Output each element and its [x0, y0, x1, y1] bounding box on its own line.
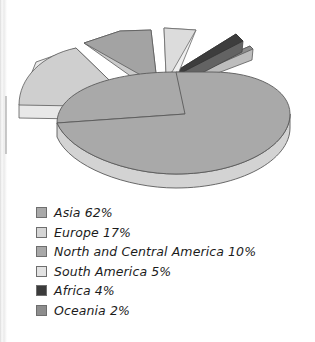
legend-swatch-oceania: [36, 305, 47, 316]
pie-chart-figure: Asia 62% Europe 17% North and Central Am…: [0, 0, 315, 342]
legend-item-asia: Asia 62%: [36, 203, 306, 223]
legend-label-north-and-central-america: North and Central America 10%: [54, 244, 256, 259]
legend-swatch-asia: [36, 207, 47, 218]
pie-chart-graphic: [0, 0, 315, 196]
chart-legend: Asia 62% Europe 17% North and Central Am…: [36, 203, 306, 320]
legend-label-south-america: South America 5%: [54, 264, 171, 279]
legend-label-asia: Asia 62%: [54, 205, 113, 220]
legend-item-oceania: Oceania 2%: [36, 301, 306, 321]
legend-item-north-and-central-america: North and Central America 10%: [36, 242, 306, 262]
legend-swatch-south-america: [36, 266, 47, 277]
legend-label-oceania: Oceania 2%: [54, 303, 130, 318]
legend-swatch-north-and-central-america: [36, 246, 47, 257]
pie-chart-svg: [0, 0, 315, 196]
legend-label-europe: Europe 17%: [54, 225, 131, 240]
legend-item-africa: Africa 4%: [36, 281, 306, 301]
legend-item-europe: Europe 17%: [36, 223, 306, 243]
legend-swatch-africa: [36, 285, 47, 296]
legend-swatch-europe: [36, 227, 47, 238]
legend-item-south-america: South America 5%: [36, 262, 306, 282]
pie-slice-asia: [57, 72, 290, 188]
legend-label-africa: Africa 4%: [54, 283, 115, 298]
